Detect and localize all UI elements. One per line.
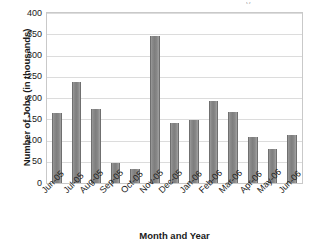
- y-axis-tick-label: 300: [16, 51, 42, 60]
- bar[interactable]: [72, 82, 82, 183]
- bar-slot: [67, 13, 87, 183]
- plot-area: [46, 12, 303, 184]
- bar-chart-figure: y Number of Jobs (in thousands) 40035030…: [0, 0, 317, 246]
- bar-slot: [47, 13, 67, 183]
- y-axis-tick-label: 400: [16, 9, 42, 18]
- y-axis-tick-label: 350: [16, 30, 42, 39]
- bar-slot: [282, 13, 302, 183]
- y-axis-tick-label: 100: [16, 136, 42, 145]
- y-axis-tick-label: 0: [16, 179, 42, 188]
- bar-slot: [184, 13, 204, 183]
- bar-slot: [86, 13, 106, 183]
- bar-slot: [263, 13, 283, 183]
- x-tick-slot: Jun-06: [283, 186, 303, 228]
- x-axis-title: Month and Year: [46, 230, 303, 241]
- y-axis-tick-label: 200: [16, 94, 42, 103]
- bars-container: [47, 13, 302, 183]
- y-axis-tick-label: 150: [16, 115, 42, 124]
- bar-slot: [243, 13, 263, 183]
- bar-slot: [204, 13, 224, 183]
- bar-slot: [125, 13, 145, 183]
- bar-slot: [223, 13, 243, 183]
- bar-slot: [145, 13, 165, 183]
- bar[interactable]: [150, 36, 160, 183]
- y-axis-tick-labels: 400350300250200150100500: [16, 12, 42, 184]
- y-axis-tick-label: 50: [16, 157, 42, 166]
- bar-slot: [106, 13, 126, 183]
- y-axis-tick-label: 250: [16, 72, 42, 81]
- x-tick-slot: Jun-05: [46, 186, 66, 228]
- bar-slot: [165, 13, 185, 183]
- x-tick-slot: Mar-06: [224, 186, 244, 228]
- cropped-chart-title: y: [246, 0, 251, 4]
- x-axis-tick-labels: Jun-05Jul-05Aug-05Sep-05Oct-05Nov-05Dec-…: [46, 186, 303, 228]
